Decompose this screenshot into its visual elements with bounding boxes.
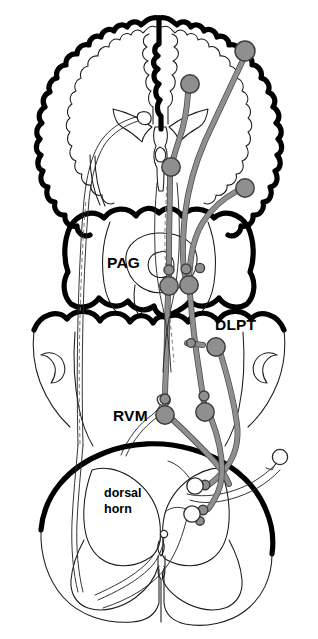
rvm-right-neuron	[196, 403, 214, 421]
label-dorsal-horn-line2: horn	[104, 502, 132, 516]
label-rvm: RVM	[113, 407, 148, 424]
thalamus-neuron	[162, 158, 180, 176]
pag-right-neuron	[180, 276, 198, 294]
label-dlpt: DLPT	[215, 316, 257, 333]
bouton-onto-pag-right	[181, 264, 191, 274]
dlpt-neuron	[207, 338, 225, 356]
primary-afferent-neuron	[272, 449, 287, 464]
bouton-onto-rvm-right	[199, 391, 209, 401]
dorsal-horn-interneuron	[184, 506, 200, 522]
pag-left-neuron	[160, 277, 178, 295]
anatomy-diagram: PAG DLPT RVM dorsal horn	[0, 0, 318, 639]
label-dorsal-horn-line1: dorsal	[104, 486, 142, 500]
spinothalamic-terminal-bulb	[137, 112, 151, 125]
rvm-left-neuron	[156, 406, 174, 424]
bouton-onto-rvm-left	[160, 394, 170, 404]
cortex-right-low-neuron	[236, 179, 254, 197]
bouton-onto-dlpt	[187, 339, 196, 348]
bouton-onto-pag-lateral	[195, 263, 204, 272]
central-canal	[160, 530, 167, 537]
cortex-lateral-neuron	[235, 41, 255, 61]
label-pag: PAG	[107, 254, 140, 271]
dorsal-horn-projection-neuron	[187, 478, 203, 494]
cortex-medial-neuron	[181, 75, 199, 93]
pain-pathway-figure: PAG DLPT RVM dorsal horn	[0, 0, 318, 639]
